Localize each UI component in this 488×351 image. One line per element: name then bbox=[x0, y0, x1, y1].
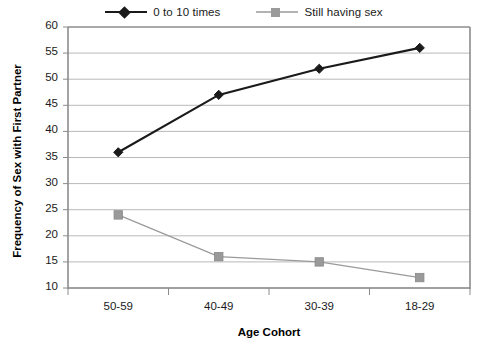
x-axis-ticks bbox=[63, 27, 470, 295]
y-tick-label: 25 bbox=[24, 202, 58, 214]
data-point-marker bbox=[315, 64, 324, 73]
gridlines bbox=[68, 27, 470, 288]
y-axis-title: Frequency of Sex with First Partner bbox=[11, 41, 23, 281]
y-tick-label: 35 bbox=[24, 150, 58, 162]
x-tick-label: 50-59 bbox=[73, 300, 163, 312]
series-line-2 bbox=[118, 215, 420, 278]
data-point-marker bbox=[114, 148, 123, 157]
series-line-1 bbox=[118, 48, 420, 152]
y-tick-label: 40 bbox=[24, 123, 58, 135]
x-tick-label: 30-39 bbox=[274, 300, 364, 312]
data-point-marker bbox=[114, 211, 122, 219]
y-tick-label: 55 bbox=[24, 45, 58, 57]
x-tick-label: 40-49 bbox=[174, 300, 264, 312]
y-tick-label: 60 bbox=[24, 19, 58, 31]
data-point-marker bbox=[416, 273, 424, 281]
data-point-marker bbox=[214, 90, 223, 99]
plot-svg bbox=[0, 0, 488, 351]
y-tick-label: 15 bbox=[24, 254, 58, 266]
line-chart: 0 to 10 times Still having sex 605550454… bbox=[0, 0, 488, 351]
plot-area: 6055504540353025201510 50-5940-4930-3918… bbox=[0, 0, 488, 351]
x-axis-title: Age Cohort bbox=[68, 326, 470, 338]
x-tick-label: 18-29 bbox=[375, 300, 465, 312]
y-tick-label: 20 bbox=[24, 228, 58, 240]
data-point-marker bbox=[215, 252, 223, 260]
y-tick-label: 30 bbox=[24, 176, 58, 188]
y-tick-label: 45 bbox=[24, 97, 58, 109]
data-point-marker bbox=[315, 258, 323, 266]
y-tick-label: 10 bbox=[24, 280, 58, 292]
data-point-marker bbox=[415, 43, 424, 52]
y-tick-label: 50 bbox=[24, 71, 58, 83]
